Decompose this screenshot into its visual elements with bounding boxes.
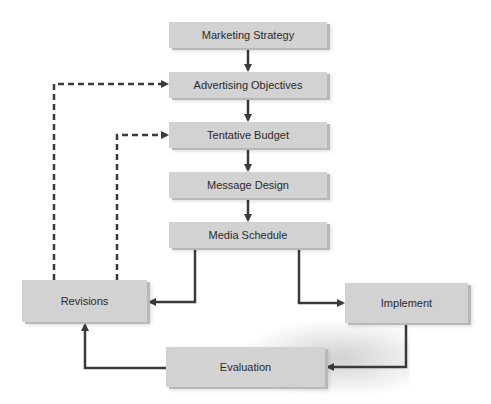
node-label: Implement	[381, 297, 432, 309]
node-advertising-objectives: Advertising Objectives	[169, 72, 327, 98]
node-label: Advertising Objectives	[194, 79, 303, 91]
dashed-revisions-to-budget	[117, 135, 167, 280]
node-media-schedule: Media Schedule	[169, 222, 327, 248]
node-message-design: Message Design	[169, 172, 327, 198]
arrow-implement-to-evaluation	[328, 324, 406, 367]
node-label: Evaluation	[220, 361, 271, 373]
node-label: Tentative Budget	[207, 129, 289, 141]
arrow-media-to-revisions	[150, 248, 195, 302]
node-label: Marketing Strategy	[202, 29, 294, 41]
arrow-media-to-implement	[299, 248, 343, 303]
node-revisions: Revisions	[22, 280, 147, 322]
dashed-revisions-to-objectives	[54, 84, 167, 280]
node-implement: Implement	[345, 283, 468, 323]
node-label: Media Schedule	[209, 229, 288, 241]
node-label: Message Design	[207, 179, 289, 191]
node-evaluation: Evaluation	[166, 347, 325, 387]
node-label: Revisions	[61, 295, 109, 307]
node-tentative-budget: Tentative Budget	[169, 122, 327, 148]
arrow-evaluation-to-revisions	[85, 325, 166, 368]
connector-layer	[0, 0, 491, 404]
node-marketing-strategy: Marketing Strategy	[169, 22, 327, 48]
